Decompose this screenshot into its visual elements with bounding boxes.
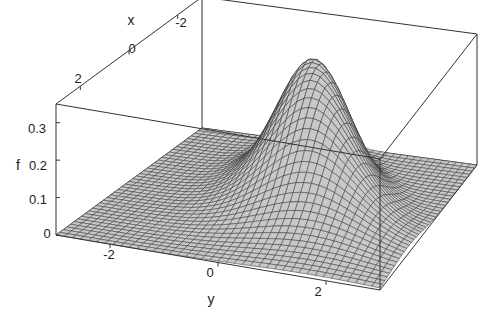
x-tick-label: -2 — [175, 15, 187, 30]
y-tick-label: 0 — [206, 265, 213, 280]
z-axis-title: f — [16, 157, 20, 173]
y-axis-title: y — [208, 291, 215, 307]
surface-mesh — [56, 59, 477, 288]
z-tick-label: 0.3 — [28, 121, 46, 136]
x-axis-title: x — [128, 12, 135, 28]
surface-plot — [0, 0, 494, 321]
x-tick-label: 2 — [74, 71, 81, 86]
y-tick-label: 2 — [314, 284, 321, 299]
z-tick-label: 0.2 — [29, 158, 47, 173]
z-tick-label: 0 — [43, 226, 50, 241]
y-tick-label: -2 — [103, 247, 115, 262]
z-tick-label: 0.1 — [29, 192, 47, 207]
x-tick-label: 0 — [128, 41, 135, 56]
